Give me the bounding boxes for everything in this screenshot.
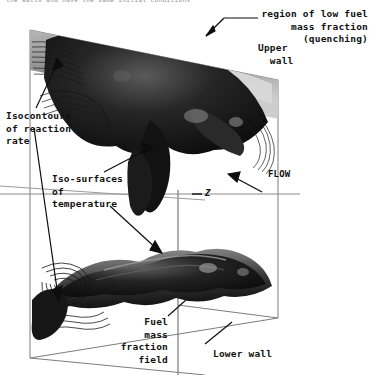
label-axis-z: Z [205,187,211,200]
figure-canvas: the walls and have the same initial cond… [0,0,372,375]
label-upper-wall: Upper wall [258,42,294,67]
label-fuel-mass-fraction-field: Fuel mass fraction field [78,316,168,366]
label-isosurfaces-of-temperature: Iso-surfaces of temperature [52,173,123,211]
label-quenching-region: region of low fuel mass fraction (quench… [261,8,368,46]
label-lower-wall: Lower wall [213,348,272,361]
label-flow-direction: FLOW [268,168,290,181]
label-isocontours-of-reaction-rate: Isocontours of reaction rate [6,110,71,148]
